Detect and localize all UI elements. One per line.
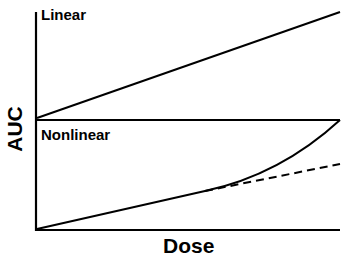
x-axis-label: Dose bbox=[163, 234, 214, 258]
nonlinear-label: Nonlinear bbox=[41, 126, 110, 143]
auc-dose-diagram: Linear Nonlinear Dose AUC bbox=[0, 0, 350, 265]
y-axis-label: AUC bbox=[3, 106, 27, 152]
linear-label: Linear bbox=[41, 6, 86, 23]
linear-line bbox=[37, 12, 340, 118]
